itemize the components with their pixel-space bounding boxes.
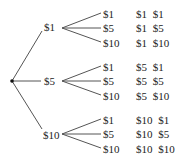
branch-first-to-second-3 bbox=[62, 66, 101, 81]
second-draw-label: $1 bbox=[103, 115, 114, 126]
second-draw-label: $5 bbox=[103, 76, 114, 87]
second-draw-label: $5 bbox=[103, 129, 114, 140]
branch-root-to-first-2 bbox=[12, 81, 42, 129]
outcome-label: $1 $5 bbox=[136, 23, 164, 34]
second-draw-label: $5 bbox=[103, 23, 114, 34]
outcome-label: $10 $5 bbox=[136, 129, 169, 140]
outcome-label: $10 $1 bbox=[136, 115, 169, 126]
first-draw-label: $5 bbox=[44, 76, 55, 87]
second-draw-label: $10 bbox=[103, 91, 120, 102]
outcome-label: $5 $5 bbox=[136, 76, 164, 87]
outcome-label: $5 $1 bbox=[136, 62, 164, 73]
outcome-label: $5 $10 bbox=[136, 91, 169, 102]
branch-first-to-second-6 bbox=[62, 119, 101, 134]
outcome-label: $10 $10 bbox=[136, 144, 175, 155]
root-node bbox=[10, 79, 14, 83]
first-draw-label: $1 bbox=[44, 22, 55, 33]
outcome-label: $1 $1 bbox=[136, 9, 164, 20]
outcome-label: $1 $10 bbox=[136, 38, 169, 49]
second-draw-label: $1 bbox=[103, 62, 114, 73]
branch-first-to-second-0 bbox=[62, 13, 101, 28]
branch-first-to-second-8 bbox=[62, 134, 101, 148]
branch-root-to-first-0 bbox=[12, 31, 42, 81]
second-draw-label: $10 bbox=[103, 144, 120, 155]
tree-branches bbox=[12, 13, 101, 148]
first-draw-label: $10 bbox=[43, 130, 60, 141]
second-draw-label: $10 bbox=[103, 38, 120, 49]
branch-first-to-second-5 bbox=[62, 81, 101, 95]
branch-first-to-second-2 bbox=[62, 28, 101, 42]
second-draw-label: $1 bbox=[103, 9, 114, 20]
